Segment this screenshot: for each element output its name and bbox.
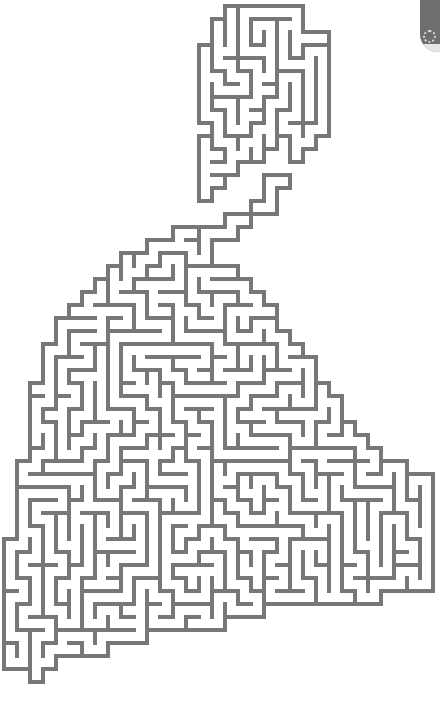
corner-badge — [420, 0, 440, 52]
corner-fade — [420, 44, 440, 52]
maze-wall-paths — [4, 6, 433, 682]
maze-drawing — [0, 0, 440, 703]
flower-icon — [423, 30, 436, 43]
maze-walls — [4, 6, 433, 682]
maze-puzzle — [0, 0, 440, 703]
